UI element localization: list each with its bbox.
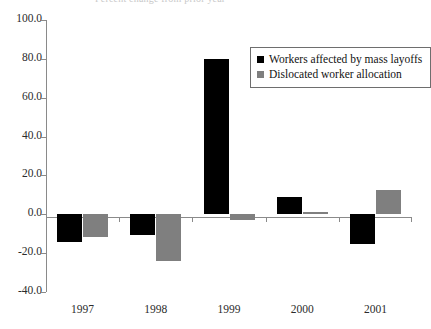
y-tick	[41, 98, 46, 99]
y-tick	[41, 292, 46, 293]
y-tick-label: 100.0	[16, 12, 42, 24]
x-tick-label: 2000	[272, 303, 332, 315]
page-title: Percent change from prior year	[95, 0, 225, 4]
x-tick-label: 1997	[53, 303, 113, 315]
x-tick-label: 2001	[345, 303, 405, 315]
y-tick	[41, 59, 46, 60]
y-axis-labels: 100.080.060.040.020.00.0-20.0-40.0	[0, 20, 42, 292]
x-tick-label: 1999	[199, 303, 259, 315]
bar	[350, 214, 375, 244]
y-tick-label: -40.0	[18, 284, 42, 296]
legend-label: Workers affected by mass layoffs	[269, 52, 422, 67]
y-tick	[41, 20, 46, 21]
y-tick-label: 0.0	[28, 206, 42, 218]
bar	[57, 214, 82, 242]
bar	[130, 214, 155, 234]
bar	[156, 214, 181, 261]
bar	[376, 190, 401, 214]
legend-item: Dislocated worker allocation	[257, 67, 422, 82]
x-tick	[411, 217, 412, 222]
y-tick-label: -20.0	[18, 245, 42, 257]
legend-item: Workers affected by mass layoffs	[257, 52, 422, 67]
bar	[303, 212, 328, 214]
legend-label: Dislocated worker allocation	[269, 67, 402, 82]
y-axis-line	[46, 20, 47, 292]
bar	[83, 214, 108, 236]
bar	[204, 59, 229, 214]
legend-swatch-gray	[257, 71, 264, 78]
x-tick	[192, 217, 193, 222]
y-tick-label: 60.0	[22, 90, 42, 102]
y-tick	[41, 175, 46, 176]
y-tick-label: 20.0	[22, 167, 42, 179]
bar	[277, 197, 302, 214]
y-tick	[41, 214, 46, 215]
x-tick	[266, 217, 267, 222]
bar	[230, 214, 255, 220]
x-tick-label: 1998	[126, 303, 186, 315]
y-tick-label: 80.0	[22, 51, 42, 63]
legend-swatch-black	[257, 56, 264, 63]
chart-legend: Workers affected by mass layoffsDislocat…	[250, 47, 431, 88]
y-tick	[41, 137, 46, 138]
y-tick	[41, 253, 46, 254]
x-tick	[339, 217, 340, 222]
x-tick	[119, 217, 120, 222]
y-tick-label: 40.0	[22, 129, 42, 141]
x-tick	[46, 217, 47, 222]
